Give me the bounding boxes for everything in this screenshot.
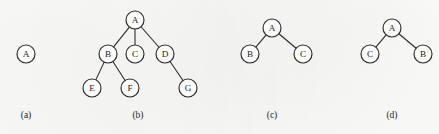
node-label-d-C: C — [367, 49, 373, 59]
tree-edge-b-A-B — [114, 27, 130, 47]
node-label-c-A: A — [269, 23, 276, 33]
panel-caption-a: (a) — [6, 110, 46, 120]
tree-panel-d: ACB — [361, 19, 432, 63]
tree-node-b-B[interactable]: B — [99, 45, 117, 63]
node-label-b-F: F — [127, 83, 132, 93]
node-label-c-C: C — [300, 49, 306, 59]
tree-edge-d-A-B — [399, 34, 416, 48]
tree-panel-b: ABCDEFG — [83, 11, 197, 97]
tree-panel-c: ABC — [241, 19, 312, 63]
tree-node-a-A[interactable]: A — [17, 45, 35, 63]
node-label-b-B: B — [105, 49, 111, 59]
tree-node-b-C[interactable]: C — [126, 45, 144, 63]
tree-node-c-A[interactable]: A — [263, 19, 281, 37]
panel-caption-c: (c) — [252, 110, 292, 120]
tree-edge-d-A-C — [376, 35, 386, 47]
tree-node-b-E[interactable]: E — [83, 79, 101, 97]
tree-node-d-C[interactable]: C — [361, 45, 379, 63]
node-label-b-E: E — [89, 83, 95, 93]
panel-caption-d: (d) — [372, 110, 412, 120]
node-label-b-A: A — [132, 15, 139, 25]
tree-node-b-A[interactable]: A — [126, 11, 144, 29]
tree-node-c-C[interactable]: C — [294, 45, 312, 63]
tree-edge-b-B-F — [113, 62, 125, 81]
node-label-b-C: C — [132, 49, 138, 59]
tree-edge-c-A-C — [279, 34, 296, 48]
tree-node-b-F[interactable]: F — [121, 79, 139, 97]
node-label-d-B: B — [420, 49, 426, 59]
tree-node-d-A[interactable]: A — [383, 19, 401, 37]
panel-caption-b: (b) — [118, 110, 158, 120]
tree-node-d-B[interactable]: B — [414, 45, 432, 63]
tree-figure-container: AABCDEFGABCACB (a)(b)(c)(d) — [0, 0, 439, 134]
tree-node-c-B[interactable]: B — [241, 45, 259, 63]
tree-edge-c-A-B — [256, 35, 266, 47]
node-label-b-D: D — [162, 49, 169, 59]
tree-edge-b-A-D — [141, 27, 159, 48]
node-label-a-A: A — [23, 49, 30, 59]
tree-node-b-D[interactable]: D — [156, 45, 174, 63]
tree-panel-a: A — [17, 45, 35, 63]
tree-edge-b-B-E — [96, 62, 104, 80]
tree-edge-b-D-G — [170, 61, 183, 80]
node-label-d-A: A — [389, 23, 396, 33]
node-label-b-G: G — [185, 83, 192, 93]
tree-node-b-G[interactable]: G — [179, 79, 197, 97]
node-label-c-B: B — [247, 49, 253, 59]
